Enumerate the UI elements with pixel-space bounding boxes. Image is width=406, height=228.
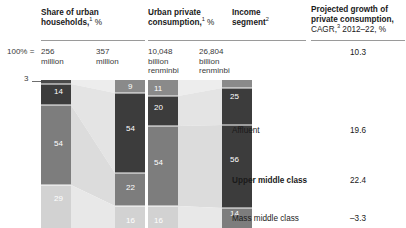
total-households-2022-value: 357 [96, 47, 109, 56]
col1-title-line2: households, [41, 18, 89, 27]
chart2-ribbons [178, 80, 222, 228]
col3-footnote: 2 [266, 16, 269, 22]
chart1-svg [41, 80, 145, 228]
column-header-income-segment: Income segment2 [232, 8, 302, 28]
col1-unit: % [95, 18, 102, 27]
total-consumption-2022-unit2: renminbi [199, 66, 230, 75]
growth-value-mass-middle-class: –3.3 [335, 214, 381, 223]
col2-title-line1: Urban private [148, 8, 201, 17]
total-consumption-2012-unit2: renminbi [148, 66, 179, 75]
chart1-bar-2012 [41, 80, 71, 228]
growth-value-global-affluent: 10.3 [335, 48, 381, 57]
column-header-urban-consumption: Urban private consumption,1 % [148, 8, 240, 28]
total-households-2012-value: 256 [41, 47, 54, 56]
chart2-svg [148, 80, 252, 228]
total-consumption-2022: 26,804 billion renminbi [199, 47, 230, 76]
col3-title-line1: Income [232, 8, 261, 17]
segment-label-affluent: Affluent [232, 126, 260, 135]
chart-share-of-urban-households [41, 80, 145, 228]
col2-title-line2: consumption, [148, 18, 202, 27]
col4-title-line3: CAGR, [311, 25, 337, 34]
chart1-ribbons [71, 80, 115, 228]
growth-value-affluent: 19.6 [335, 126, 381, 135]
rule-col1 [41, 40, 145, 41]
hundred-percent-label: 100% = [7, 47, 34, 56]
col3-title-line2: segment [232, 18, 266, 27]
total-households-2012-unit: million [41, 57, 64, 66]
rule-col4 [311, 40, 405, 41]
chart1-left-value-0: 3 [24, 74, 28, 83]
col4-title-line1: Projected growth of [311, 5, 388, 14]
segment-label-mass-middle-class: Mass middle class [232, 214, 299, 223]
segment-label-upper-middle-class: Upper middle class [232, 176, 307, 185]
col4-unit: 2012–22, % [340, 25, 386, 34]
total-consumption-2012: 10,048 billion renminbi [148, 47, 179, 76]
col2-unit: % [207, 18, 214, 27]
chart2-bar-2022 [222, 80, 252, 228]
column-header-urban-households: Share of urban households,1 % [41, 8, 133, 28]
total-consumption-2022-value: 26,804 [199, 47, 223, 56]
chart1-bar-2022 [115, 80, 145, 228]
chart2-bar-2012 [148, 80, 178, 228]
total-consumption-2012-value: 10,048 [148, 47, 172, 56]
total-households-2022: 357 million [96, 47, 119, 66]
total-households-2012: 256 million [41, 47, 64, 66]
exhibit-root: Share of urban households,1 % Urban priv… [0, 0, 406, 228]
chart1-leader-line [32, 81, 41, 82]
total-households-2022-unit: million [96, 57, 119, 66]
growth-value-upper-middle-class: 22.4 [335, 176, 381, 185]
col4-title-line2: private consumption, [311, 15, 394, 24]
total-consumption-2022-unit1: billion [199, 57, 219, 66]
total-consumption-2012-unit1: billion [148, 57, 168, 66]
chart-urban-private-consumption [148, 80, 252, 228]
column-header-projected-growth: Projected growth of private consumption,… [311, 5, 405, 36]
col1-footnote: 1 [89, 16, 92, 22]
col2-footnote: 1 [202, 16, 205, 22]
rule-col3 [232, 40, 306, 41]
